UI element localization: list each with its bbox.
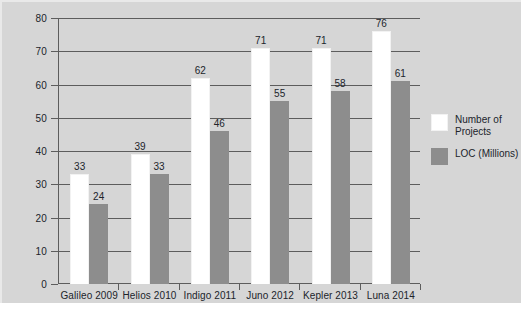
gridline	[58, 18, 420, 19]
legend-label: Number of Projects	[455, 114, 519, 137]
bar-value-label: 71	[315, 35, 326, 46]
bar	[372, 31, 391, 284]
bar	[191, 78, 210, 284]
bar-value-label: 39	[134, 141, 145, 152]
x-axis-tick	[118, 284, 119, 290]
bar	[312, 48, 331, 284]
y-axis-tick-label: 80	[35, 13, 47, 24]
bar-value-label: 76	[376, 18, 387, 29]
bar-value-label: 24	[93, 191, 104, 202]
y-axis-line	[58, 18, 59, 284]
x-axis-tick	[299, 284, 300, 290]
gridline	[58, 251, 420, 252]
legend-swatch-white-icon	[431, 114, 448, 131]
y-axis-tick-label: 30	[35, 179, 47, 190]
legend-label: LOC (Millions)	[455, 148, 518, 160]
x-axis-tick	[179, 284, 180, 290]
y-axis-tick	[51, 284, 58, 285]
legend-item-number-of-projects: Number of Projects	[431, 114, 519, 137]
x-axis-tick-label: Indigo 2011	[184, 290, 237, 301]
bar	[391, 81, 410, 284]
bar-value-label: 33	[153, 161, 164, 172]
x-axis-tick-label: Galileo 2009	[60, 290, 117, 301]
bar	[131, 154, 150, 284]
bar	[270, 101, 289, 284]
gridline	[58, 85, 420, 86]
gridline	[58, 51, 420, 52]
bar-value-label: 71	[255, 35, 266, 46]
legend-swatch-gray-icon	[431, 148, 448, 165]
y-axis-tick	[51, 18, 58, 19]
bar	[331, 91, 350, 284]
x-axis-tick-label: Juno 2012	[246, 290, 294, 301]
bar-value-label: 46	[214, 118, 225, 129]
bar	[251, 48, 270, 284]
y-axis-tick	[51, 118, 58, 119]
bar	[70, 174, 89, 284]
x-axis-tick	[239, 284, 240, 290]
gridline	[58, 118, 420, 119]
bar-chart: 01020304050607080 Galileo 2009Helios 201…	[0, 0, 521, 303]
bar-value-label: 33	[74, 161, 85, 172]
gridline	[58, 184, 420, 185]
page-bottom-margin	[0, 303, 521, 314]
bar	[150, 174, 169, 284]
y-axis-tick	[51, 151, 58, 152]
bar	[210, 131, 229, 284]
x-axis-tick-label: Kepler 2013	[303, 290, 358, 301]
plot-area: 01020304050607080 Galileo 2009Helios 201…	[58, 18, 420, 284]
bar-value-label: 55	[274, 88, 285, 99]
y-axis-tick	[51, 51, 58, 52]
y-axis-tick	[51, 85, 58, 86]
y-axis-tick-label: 10	[35, 245, 47, 256]
y-axis-tick-label: 50	[35, 112, 47, 123]
y-axis-tick-label: 20	[35, 212, 47, 223]
x-axis-tick	[360, 284, 361, 290]
y-axis-tick	[51, 251, 58, 252]
bar	[89, 204, 108, 284]
x-axis-tick	[420, 284, 421, 290]
gridline	[58, 218, 420, 219]
y-axis-tick-label: 0	[41, 279, 47, 290]
x-axis-tick-label: Luna 2014	[367, 290, 415, 301]
bar-value-label: 58	[334, 78, 345, 89]
bar-value-label: 62	[195, 65, 206, 76]
y-axis-tick-label: 70	[35, 46, 47, 57]
y-axis-tick	[51, 184, 58, 185]
x-axis-tick-label: Helios 2010	[123, 290, 177, 301]
legend-item-loc-millions: LOC (Millions)	[431, 148, 519, 165]
y-axis-tick-label: 40	[35, 146, 47, 157]
bar-value-label: 61	[395, 68, 406, 79]
y-axis-tick	[51, 218, 58, 219]
gridline	[58, 151, 420, 152]
chart-legend: Number of Projects LOC (Millions)	[431, 114, 519, 176]
y-axis-tick-label: 60	[35, 79, 47, 90]
